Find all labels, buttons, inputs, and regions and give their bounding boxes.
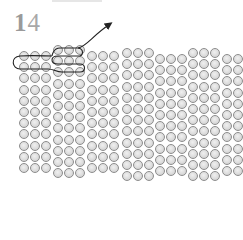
- bead: [177, 99, 187, 109]
- bead: [19, 141, 29, 151]
- bead: [144, 70, 154, 80]
- bead: [98, 163, 108, 173]
- bead: [177, 88, 187, 98]
- bead: [233, 54, 243, 64]
- bead: [166, 110, 176, 120]
- bead: [98, 51, 108, 61]
- bead: [19, 107, 29, 117]
- bead: [144, 104, 154, 114]
- bead: [144, 82, 154, 92]
- bead: [199, 82, 209, 92]
- bead: [75, 90, 85, 100]
- bead: [87, 129, 97, 139]
- bead: [144, 171, 154, 181]
- bead: [75, 157, 85, 167]
- bead: [87, 62, 97, 72]
- bead: [30, 85, 40, 95]
- bead: [30, 163, 40, 173]
- bead: [122, 126, 132, 136]
- bead: [75, 56, 85, 66]
- bead: [133, 115, 143, 125]
- bead: [64, 90, 74, 100]
- bead: [64, 67, 74, 77]
- bead: [188, 126, 198, 136]
- bead: [75, 67, 85, 77]
- bead: [188, 138, 198, 148]
- bead: [87, 96, 97, 106]
- bead: [155, 54, 165, 64]
- bead: [41, 85, 51, 95]
- bead: [109, 107, 119, 117]
- bead: [222, 144, 232, 154]
- bead: [98, 141, 108, 151]
- bead: [133, 82, 143, 92]
- bead: [166, 54, 176, 64]
- bead: [133, 126, 143, 136]
- bead: [210, 115, 220, 125]
- bead: [166, 76, 176, 86]
- bead: [109, 96, 119, 106]
- bead: [19, 129, 29, 139]
- bead: [41, 141, 51, 151]
- bead: [155, 144, 165, 154]
- bead: [233, 65, 243, 75]
- bead: [64, 157, 74, 167]
- bead: [30, 51, 40, 61]
- bead: [222, 121, 232, 131]
- bead: [64, 168, 74, 178]
- bead: [166, 99, 176, 109]
- bead: [177, 144, 187, 154]
- bead: [233, 99, 243, 109]
- bead: [41, 129, 51, 139]
- bead: [41, 118, 51, 128]
- bead: [199, 115, 209, 125]
- bead: [109, 163, 119, 173]
- bead: [75, 112, 85, 122]
- bead: [109, 62, 119, 72]
- bead: [30, 96, 40, 106]
- bead: [64, 135, 74, 145]
- bead: [177, 121, 187, 131]
- bead: [64, 56, 74, 66]
- bead: [122, 82, 132, 92]
- bead: [109, 141, 119, 151]
- bead: [133, 138, 143, 148]
- bead: [53, 79, 63, 89]
- bead: [188, 82, 198, 92]
- bead: [98, 96, 108, 106]
- bead: [177, 132, 187, 142]
- bead: [188, 104, 198, 114]
- bead: [64, 123, 74, 133]
- bead: [188, 115, 198, 125]
- bead: [64, 146, 74, 156]
- bead: [199, 160, 209, 170]
- bead: [233, 132, 243, 142]
- bead: [133, 70, 143, 80]
- bead: [53, 123, 63, 133]
- bead: [199, 138, 209, 148]
- bead: [210, 59, 220, 69]
- bead: [53, 90, 63, 100]
- bead: [133, 48, 143, 58]
- bead: [122, 115, 132, 125]
- bead: [122, 160, 132, 170]
- bead: [133, 104, 143, 114]
- bead: [144, 59, 154, 69]
- bead: [133, 149, 143, 159]
- bead: [155, 65, 165, 75]
- bead: [144, 160, 154, 170]
- bead: [64, 45, 74, 55]
- bead: [98, 107, 108, 117]
- bead: [233, 144, 243, 154]
- bead: [87, 152, 97, 162]
- bead: [199, 126, 209, 136]
- bead: [222, 99, 232, 109]
- bead: [222, 155, 232, 165]
- bead: [155, 155, 165, 165]
- bead: [155, 132, 165, 142]
- bead: [155, 110, 165, 120]
- bead: [19, 118, 29, 128]
- bead: [53, 168, 63, 178]
- bead: [98, 118, 108, 128]
- bead: [109, 51, 119, 61]
